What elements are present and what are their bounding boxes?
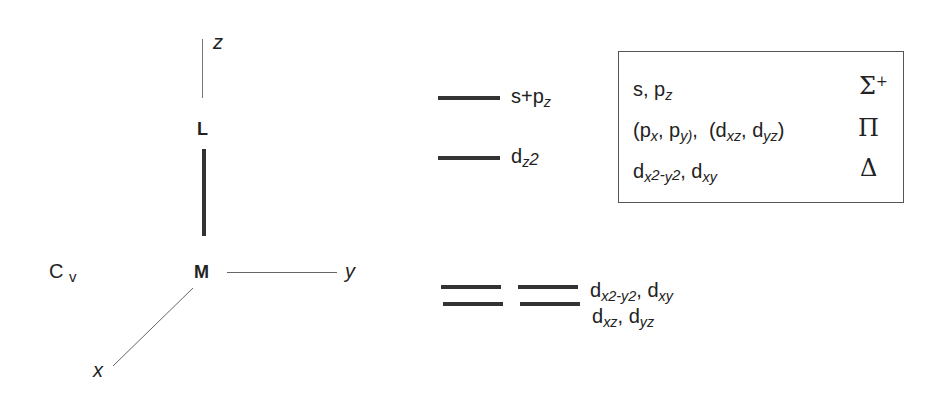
- level-dz2-label: dz2: [511, 146, 539, 170]
- z-axis-line: [202, 39, 203, 98]
- level-s-pz-label: s+pz: [511, 86, 551, 110]
- level-dz2: [438, 156, 500, 160]
- sigma-plus-symbol: Σ+: [859, 72, 888, 100]
- x-axis-line: [110, 285, 200, 370]
- symmetry-row-sigma: s, pz: [633, 78, 672, 103]
- level-d-pi-1: [443, 302, 503, 306]
- y-axis-label: y: [345, 261, 355, 281]
- delta-symbol: Δ: [860, 154, 877, 182]
- level-d-delta-label: dx2-y2, dxy: [590, 280, 673, 304]
- symmetry-row-pi: (px, py), (dxz, dyz): [633, 119, 784, 144]
- metal-atom: M: [194, 263, 209, 281]
- pi-symbol: Π: [858, 114, 879, 142]
- symmetry-table: s, pz Σ+ (px, py), (dxz, dyz) Π dx2-y2, …: [618, 51, 904, 203]
- y-axis-line: [227, 272, 337, 273]
- level-s-pz: [438, 96, 500, 100]
- symmetry-row-delta: dx2-y2, dxy: [633, 160, 717, 185]
- point-group-main: C: [49, 260, 63, 282]
- level-d-delta-1: [441, 285, 501, 289]
- point-group-sub: v: [69, 268, 77, 285]
- level-d-delta-2: [518, 285, 578, 289]
- ligand-atom: L: [197, 120, 208, 138]
- z-axis-label: z: [213, 32, 223, 52]
- point-group-label: C v: [49, 261, 77, 284]
- level-d-pi-2: [520, 302, 580, 306]
- metal-ligand-bond: [202, 149, 206, 236]
- level-d-pi-label: dxz, dyz: [592, 306, 654, 330]
- x-axis-label: x: [93, 360, 103, 380]
